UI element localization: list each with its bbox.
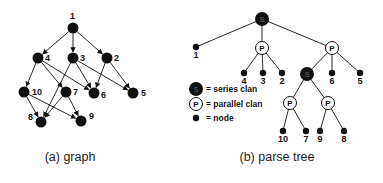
graph-edge-7-8 [45,96,63,117]
graph-node-label: 2 [114,53,119,63]
parallel-clan-glyph: P [325,99,331,108]
tree-leaf-label: 2 [279,76,284,86]
legend: S= series clanP= parallel clan= node [189,82,262,123]
tree-edge-root-p2 [262,19,332,48]
series-clan-glyph: S [194,86,199,93]
graph-edge-1-4 [43,32,69,55]
legend-label-node: = node [206,113,234,123]
graph-node-label: 5 [141,88,146,98]
tree-leaf-label: 9 [317,134,322,144]
graph-node-label: 9 [89,111,94,121]
graph-edge-2-5 [110,62,129,88]
node-icon [193,115,199,121]
tree-leaf-label: 1 [193,50,198,60]
tree-leaf-label: 7 [303,134,308,144]
tree-leaf-label: 6 [329,76,334,86]
graph-edge-3-6 [76,63,91,88]
graph-node-7 [61,87,72,98]
graph-node-label: 10 [32,87,42,97]
series-clan-glyph: S [305,71,310,78]
parallel-clan-glyph: P [193,100,199,109]
parallel-clan-glyph: P [259,44,265,53]
graph-node-label: 8 [28,112,33,122]
parallel-clan-glyph: P [287,99,293,108]
graph-node-label: 7 [73,87,78,97]
parallel-clan-glyph: P [329,44,335,53]
graph-node-3 [68,53,79,64]
series-clan-glyph: S [260,16,265,23]
graph-edge-4-6 [43,61,89,90]
graph-edge-7-9 [69,97,79,116]
diagram-canvas: 14321076589 S1PP432S65PP10798 S= series … [0,0,383,183]
tree-nodes: S1PP432S65PP10798 [193,12,363,144]
graph-caption: (a) graph [45,150,96,164]
graph-node-label: 1 [70,11,75,21]
tree-caption: (b) parse tree [239,150,314,164]
graph-node-label: 3 [80,53,85,63]
graph-edge-2-6 [96,63,105,87]
legend-label-parallel: = parallel clan [206,99,262,109]
graph-edge-4-10 [26,63,36,86]
graph-node-8 [36,117,47,128]
graph-edges [26,32,129,119]
tree-leaf-label: 3 [260,76,265,86]
graph-node-9 [76,116,87,127]
graph-edge-4-7 [41,62,62,87]
graph-node-label: 6 [101,90,106,100]
graph-node-2 [102,53,113,64]
graph-node-4 [33,53,44,64]
graph-node-6 [89,88,100,99]
graph-edge-1-2 [77,32,102,54]
legend-label-series: = series clan [206,84,257,94]
tree-leaf-label: 5 [357,76,362,86]
tree-edge-root-n1 [196,19,262,47]
graph-node-label: 4 [45,53,50,63]
graph-node-1 [68,23,79,34]
graph-nodes: 14321076589 [19,11,147,128]
graph-node-10 [19,87,30,98]
tree-leaf-label: 8 [341,134,346,144]
tree-leaf-label: 10 [278,134,288,144]
graph-node-5 [128,88,139,99]
